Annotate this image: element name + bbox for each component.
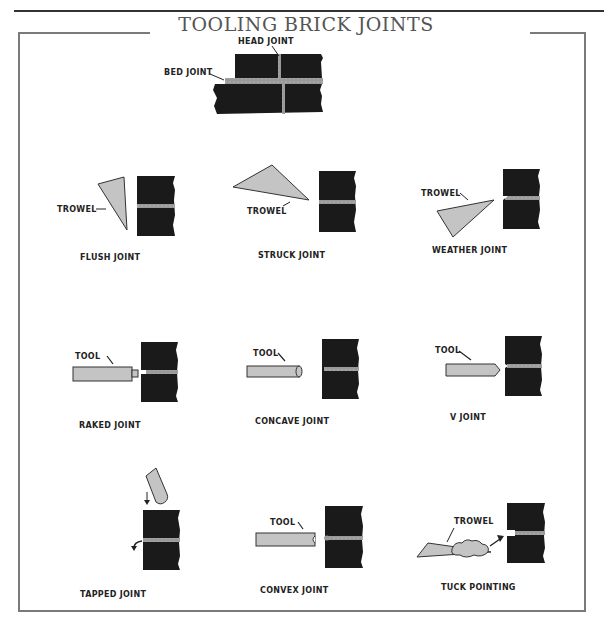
tool-label: TOOL bbox=[435, 346, 460, 355]
trowel-label: TROWEL bbox=[57, 205, 97, 214]
panel-caption-tapped: TAPPED JOINT bbox=[80, 590, 146, 599]
tool-shape bbox=[73, 367, 132, 381]
panel-caption-convex: CONVEX JOINT bbox=[260, 586, 328, 595]
trowel-shape bbox=[98, 177, 127, 230]
panel-caption-raked: RAKED JOINT bbox=[79, 421, 141, 430]
bed-joint-mortar bbox=[225, 78, 323, 84]
trowel-label: TROWEL bbox=[454, 517, 494, 526]
flush-joint-diagram bbox=[96, 176, 175, 236]
mortar-blob bbox=[452, 540, 489, 557]
panel-caption-concave: CONCAVE JOINT bbox=[255, 417, 329, 426]
tool-label: TOOL bbox=[75, 352, 100, 361]
panel-caption-flush: FLUSH JOINT bbox=[80, 253, 140, 262]
trowel-shape bbox=[233, 165, 309, 200]
brick-wall-diagram bbox=[210, 46, 323, 114]
trowel-label: TROWEL bbox=[247, 207, 287, 216]
tool-shape bbox=[256, 533, 315, 546]
panel-caption-tuck: TUCK POINTING bbox=[441, 583, 516, 592]
struck-joint-diagram bbox=[233, 165, 356, 232]
diagram-canvas bbox=[0, 0, 612, 630]
lower-head-joint-mortar bbox=[282, 84, 285, 114]
head-joint-mortar bbox=[278, 54, 281, 78]
tuck-pointing-diagram bbox=[417, 503, 545, 563]
tapped-joint-diagram bbox=[131, 468, 180, 570]
trowel-label: TROWEL bbox=[421, 189, 461, 198]
panel-caption-struck: STRUCK JOINT bbox=[258, 251, 325, 260]
raked-joint-diagram bbox=[73, 342, 178, 402]
weather-joint-diagram bbox=[437, 169, 540, 237]
bed-joint-label: BED JOINT bbox=[164, 68, 213, 77]
concave-joint-diagram bbox=[247, 339, 359, 399]
v-joint-diagram bbox=[446, 336, 542, 396]
panel-caption-weather: WEATHER JOINT bbox=[432, 246, 507, 255]
down-arrow-icon bbox=[144, 500, 150, 505]
tool-label: TOOL bbox=[270, 518, 295, 527]
tool-shape bbox=[146, 468, 168, 504]
tool-shape bbox=[247, 366, 299, 377]
convex-joint-diagram bbox=[256, 506, 363, 568]
tool-shape bbox=[446, 364, 500, 376]
trowel-shape bbox=[437, 200, 494, 237]
tool-label: TOOL bbox=[253, 349, 278, 358]
panel-caption-v: V JOINT bbox=[450, 413, 486, 422]
head-joint-label: HEAD JOINT bbox=[238, 37, 294, 46]
